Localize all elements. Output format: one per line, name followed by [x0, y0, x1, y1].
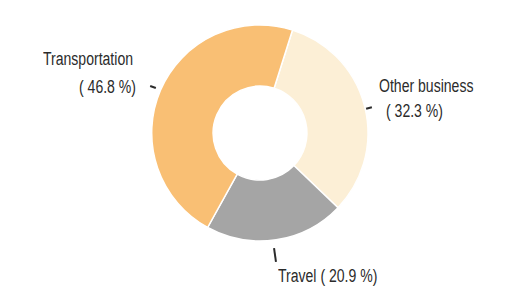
label-transportation-name: Transportation: [43, 49, 133, 69]
donut-svg: [0, 0, 519, 298]
label-other-business-name: Other business: [379, 76, 473, 96]
label-transportation-value: ( 46.8 %): [79, 77, 136, 97]
label-travel: Travel ( 20.9 %): [278, 266, 377, 286]
donut-chart: Transportation ( 46.8 %) Other business …: [0, 0, 519, 298]
label-other-business-value: ( 32.3 %): [386, 101, 443, 121]
